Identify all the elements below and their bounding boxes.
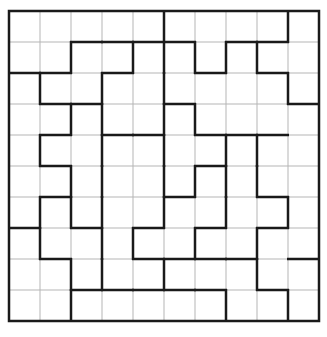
grid-cell[interactable] xyxy=(288,11,319,42)
puzzle-grid[interactable] xyxy=(0,0,327,337)
grid-cell[interactable] xyxy=(71,135,102,166)
grid-cell[interactable] xyxy=(71,166,102,197)
grid-cell[interactable] xyxy=(102,197,133,228)
grid-cell[interactable] xyxy=(40,135,71,166)
grid-cell[interactable] xyxy=(164,104,195,135)
grid-cell[interactable] xyxy=(164,197,195,228)
grid-cell[interactable] xyxy=(40,42,71,73)
grid-cell[interactable] xyxy=(164,166,195,197)
grid-cell[interactable] xyxy=(40,104,71,135)
grid-cell[interactable] xyxy=(226,11,257,42)
grid-cell[interactable] xyxy=(71,104,102,135)
grid-cell[interactable] xyxy=(133,228,164,259)
grid-cell[interactable] xyxy=(164,290,195,321)
grid-cell[interactable] xyxy=(40,197,71,228)
grid-cell[interactable] xyxy=(133,197,164,228)
grid-cell[interactable] xyxy=(102,166,133,197)
grid-cell[interactable] xyxy=(71,73,102,104)
grid-cell[interactable] xyxy=(71,290,102,321)
grid-cell[interactable] xyxy=(226,290,257,321)
grid-cell[interactable] xyxy=(195,11,226,42)
grid-cell[interactable] xyxy=(40,290,71,321)
grid-cell[interactable] xyxy=(195,135,226,166)
grid-cell[interactable] xyxy=(257,197,288,228)
grid-cell[interactable] xyxy=(102,228,133,259)
grid-cell[interactable] xyxy=(226,73,257,104)
grid-cell[interactable] xyxy=(288,259,319,290)
grid-cell[interactable] xyxy=(133,73,164,104)
grid-cell[interactable] xyxy=(102,42,133,73)
grid-cell[interactable] xyxy=(9,73,40,104)
grid-cell[interactable] xyxy=(164,42,195,73)
grid-cell[interactable] xyxy=(9,166,40,197)
grid-cell[interactable] xyxy=(257,166,288,197)
grid-cell[interactable] xyxy=(195,42,226,73)
grid-cell[interactable] xyxy=(9,228,40,259)
grid-cell[interactable] xyxy=(288,197,319,228)
grid-cell[interactable] xyxy=(133,104,164,135)
grid-cell[interactable] xyxy=(9,135,40,166)
grid-cell[interactable] xyxy=(9,290,40,321)
grid-cell[interactable] xyxy=(71,228,102,259)
grid-cell[interactable] xyxy=(195,290,226,321)
grid-cell[interactable] xyxy=(257,135,288,166)
grid-cell[interactable] xyxy=(71,197,102,228)
grid-cell[interactable] xyxy=(9,42,40,73)
grid-cell[interactable] xyxy=(133,290,164,321)
grid-cell[interactable] xyxy=(9,11,40,42)
grid-cell[interactable] xyxy=(40,259,71,290)
grid-cell[interactable] xyxy=(9,197,40,228)
grid-cell[interactable] xyxy=(102,11,133,42)
grid-cell[interactable] xyxy=(133,135,164,166)
grid-cell[interactable] xyxy=(288,290,319,321)
grid-cell[interactable] xyxy=(102,290,133,321)
grid-cell[interactable] xyxy=(195,197,226,228)
grid-cell[interactable] xyxy=(257,104,288,135)
grid-cell[interactable] xyxy=(195,166,226,197)
grid-cell[interactable] xyxy=(195,259,226,290)
grid-cell[interactable] xyxy=(102,73,133,104)
grid-cell[interactable] xyxy=(226,42,257,73)
grid-cell[interactable] xyxy=(288,104,319,135)
grid-cell[interactable] xyxy=(226,228,257,259)
grid-cell[interactable] xyxy=(40,73,71,104)
grid-cell[interactable] xyxy=(257,42,288,73)
grid-cell[interactable] xyxy=(40,11,71,42)
grid-cell[interactable] xyxy=(226,259,257,290)
grid-cell[interactable] xyxy=(102,104,133,135)
grid-cell[interactable] xyxy=(9,104,40,135)
grid-cell[interactable] xyxy=(195,104,226,135)
grid-cell[interactable] xyxy=(102,135,133,166)
grid-cell[interactable] xyxy=(40,228,71,259)
grid-cell[interactable] xyxy=(102,259,133,290)
grid-cell[interactable] xyxy=(71,11,102,42)
grid-cell[interactable] xyxy=(164,73,195,104)
grid-cell[interactable] xyxy=(133,11,164,42)
grid-cell[interactable] xyxy=(257,259,288,290)
grid-cell[interactable] xyxy=(257,73,288,104)
grid-cell[interactable] xyxy=(288,135,319,166)
grid-cell[interactable] xyxy=(133,42,164,73)
grid-cell[interactable] xyxy=(71,42,102,73)
grid-cell[interactable] xyxy=(288,166,319,197)
grid-cell[interactable] xyxy=(257,290,288,321)
grid-cell[interactable] xyxy=(40,166,71,197)
grid-cell[interactable] xyxy=(164,228,195,259)
grid-cell[interactable] xyxy=(226,197,257,228)
grid-cell[interactable] xyxy=(9,259,40,290)
grid-cell[interactable] xyxy=(288,42,319,73)
grid-cell[interactable] xyxy=(288,73,319,104)
grid-cell[interactable] xyxy=(195,228,226,259)
grid-cell[interactable] xyxy=(164,259,195,290)
grid-cell[interactable] xyxy=(133,166,164,197)
grid-cell[interactable] xyxy=(133,259,164,290)
grid-cell[interactable] xyxy=(226,135,257,166)
grid-cell[interactable] xyxy=(288,228,319,259)
grid-cell[interactable] xyxy=(226,104,257,135)
grid-cell[interactable] xyxy=(71,259,102,290)
grid-cell[interactable] xyxy=(164,135,195,166)
grid-cell[interactable] xyxy=(257,228,288,259)
grid-cell[interactable] xyxy=(257,11,288,42)
grid-cell[interactable] xyxy=(195,73,226,104)
grid-cell[interactable] xyxy=(226,166,257,197)
